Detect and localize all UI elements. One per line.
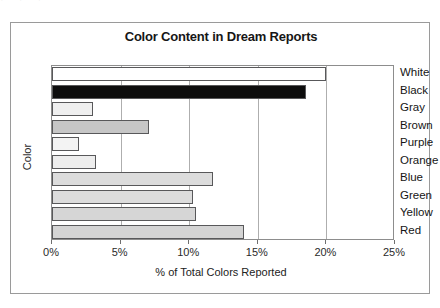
category-label-purple: Purple (400, 134, 433, 151)
bar-series (52, 66, 393, 239)
x-tick-label: 5% (100, 246, 140, 258)
bar-blue[interactable] (52, 172, 213, 186)
cropped-text: · · · (0, 0, 47, 5)
category-label-list: WhiteBlackGrayBrownPurpleOrangeBlueGreen… (394, 65, 431, 240)
x-tick (394, 240, 395, 244)
category-label-gray: Gray (400, 99, 425, 116)
x-tick-label: 15% (237, 246, 277, 258)
category-label-red: Red (400, 222, 421, 239)
category-label-white: White (400, 64, 429, 81)
bar-purple[interactable] (52, 137, 79, 151)
category-label-black: Black (400, 82, 428, 99)
bar-orange[interactable] (52, 155, 96, 169)
x-tick-label: 20% (305, 246, 345, 258)
category-label-orange: Orange (400, 152, 438, 169)
x-tick-label: 10% (168, 246, 208, 258)
bar-green[interactable] (52, 190, 193, 204)
bar-black[interactable] (52, 85, 306, 99)
bar-yellow[interactable] (52, 207, 196, 221)
category-label-blue: Blue (400, 169, 423, 186)
x-tick (120, 240, 121, 244)
chart-frame: Color Content in Dream Reports Color Whi… (10, 22, 430, 294)
bar-brown[interactable] (52, 120, 149, 134)
bar-gray[interactable] (52, 102, 93, 116)
bar-white[interactable] (52, 67, 326, 81)
y-axis-title: Color (21, 127, 33, 187)
cropped-text-sliver: · · · (0, 0, 440, 6)
x-tick (325, 240, 326, 244)
category-label-yellow: Yellow (400, 204, 433, 221)
x-tick-label: 25% (374, 246, 414, 258)
chart-title: Color Content in Dream Reports (11, 29, 431, 44)
x-tick (188, 240, 189, 244)
category-label-green: Green (400, 187, 432, 204)
plot-area (51, 65, 394, 240)
x-tick-label: 0% (31, 246, 71, 258)
x-tick (257, 240, 258, 244)
bar-red[interactable] (52, 225, 244, 239)
category-label-brown: Brown (400, 117, 433, 134)
x-tick (51, 240, 52, 244)
x-axis-title: % of Total Colors Reported (11, 266, 431, 278)
